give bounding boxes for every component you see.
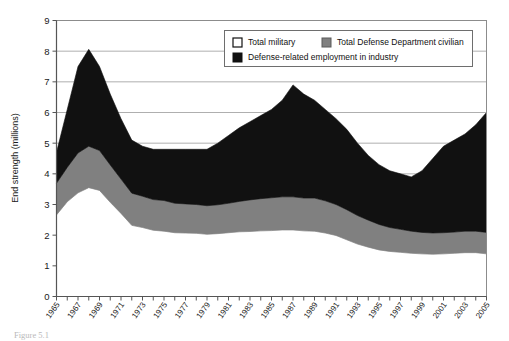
- figure-container: 0123456789 19651967196919711973197519771…: [0, 0, 509, 341]
- x-tick-label: 1999: [410, 300, 428, 320]
- x-tick-label: 1985: [259, 300, 277, 320]
- legend-label-total-military: Total military: [248, 37, 296, 47]
- x-tick-label: 1969: [87, 300, 105, 320]
- x-tick-label: 1991: [324, 300, 342, 320]
- legend-label-defense-industry: Defense-related employment in industry: [248, 52, 399, 62]
- legend-swatch-defense-industry: [233, 53, 242, 62]
- y-tick-label: 4: [44, 168, 49, 179]
- y-tick-label: 5: [44, 138, 49, 149]
- x-tick-label: 1981: [216, 300, 234, 320]
- x-tick-label: 1977: [173, 300, 191, 320]
- x-tick-label: 1975: [152, 300, 170, 320]
- x-tick-label: 1997: [388, 300, 406, 320]
- x-tick-label: 1971: [109, 300, 127, 320]
- y-axis-ticks: 0123456789: [44, 15, 56, 302]
- x-tick-label: 1989: [302, 300, 320, 320]
- x-tick-label: 1973: [130, 300, 148, 320]
- y-tick-label: 0: [44, 291, 49, 302]
- figure-caption: Figure 5.1: [14, 330, 49, 340]
- x-tick-label: 1967: [66, 300, 84, 320]
- y-tick-label: 8: [44, 46, 49, 57]
- chart-legend: Total military Total Defense Department …: [225, 31, 473, 67]
- x-axis-ticks: 1965196719691971197319751977197919811983…: [44, 297, 492, 321]
- x-tick-label: 2001: [431, 300, 449, 320]
- y-tick-label: 7: [44, 76, 49, 87]
- y-axis-title: End strength (millions): [10, 113, 20, 203]
- y-tick-label: 2: [44, 230, 49, 241]
- stacked-area-chart: 0123456789 19651967196919711973197519771…: [0, 0, 509, 341]
- legend-label-dod-civilian: Total Defense Department civilian: [337, 37, 464, 47]
- y-tick-label: 1: [44, 260, 49, 271]
- x-tick-label: 1995: [367, 300, 385, 320]
- x-tick-label: 1987: [281, 300, 299, 320]
- x-tick-label: 1965: [44, 300, 62, 320]
- x-tick-label: 1983: [238, 300, 256, 320]
- x-tick-label: 1979: [195, 300, 213, 320]
- x-tick-label: 1993: [345, 300, 363, 320]
- legend-swatch-dod-civilian: [322, 38, 331, 47]
- y-tick-label: 6: [44, 107, 49, 118]
- legend-swatch-total-military: [233, 38, 242, 47]
- y-tick-label: 3: [44, 199, 49, 210]
- x-tick-label: 2005: [474, 300, 492, 320]
- y-tick-label: 9: [44, 15, 49, 26]
- x-tick-label: 2003: [453, 300, 471, 320]
